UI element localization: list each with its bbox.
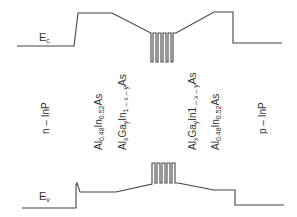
layer-label-n-inp: n – InP [40, 102, 51, 134]
layer-label-algainas-left: AlxGayIn1 – x – yAs [117, 74, 129, 150]
layer-label-algainas-right: AlxGayIn1 – x – yAs [187, 73, 199, 150]
layer-label-alinas-left: Al0.48In0.52As [93, 94, 105, 150]
valence-band-label: Ev [39, 190, 50, 203]
layer-label-alinas-right: Al0.48In0.52As [210, 94, 222, 150]
layer-label-p-inp: p – InP [257, 102, 268, 134]
conduction-band-line [17, 12, 282, 62]
conduction-band-label: Ec [39, 31, 50, 44]
valence-band-line [22, 163, 284, 208]
